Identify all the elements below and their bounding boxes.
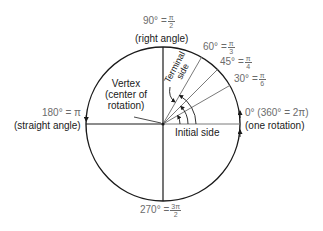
- fraction-pi-over-6: π6: [259, 72, 266, 87]
- label-45-degrees: 45° =π4: [220, 55, 252, 70]
- label-initial-side: Initial side: [175, 127, 219, 138]
- label-90-degrees: 90° =π2: [143, 14, 175, 29]
- label-one-rotation: (one rotation): [245, 120, 304, 131]
- label-30-degrees: 30° =π6: [234, 72, 266, 87]
- fraction-pi-over-4: π4: [245, 55, 252, 70]
- fraction-pi-over-2: π2: [168, 14, 175, 29]
- label-270-degrees: 270° =3π2: [140, 203, 181, 218]
- label-straight-angle: (straight angle): [14, 120, 81, 131]
- vertex-dot: [161, 122, 164, 125]
- label-right-angle: (right angle): [135, 33, 188, 44]
- fraction-pi-over-3: π3: [228, 40, 235, 55]
- label-vertex: Vertex (center of rotation): [96, 78, 156, 111]
- label-60-degrees: 60° =π3: [203, 40, 235, 55]
- label-180-degrees: 180° = π: [42, 107, 81, 118]
- vertex-pointer-line: [134, 117, 161, 123]
- label-0-degrees: 0° (360° = 2π): [245, 107, 309, 118]
- arc-30-degrees: [178, 116, 180, 125]
- fraction-3pi-over-2: 3π2: [170, 203, 181, 218]
- arc-45-degrees: [181, 106, 188, 124]
